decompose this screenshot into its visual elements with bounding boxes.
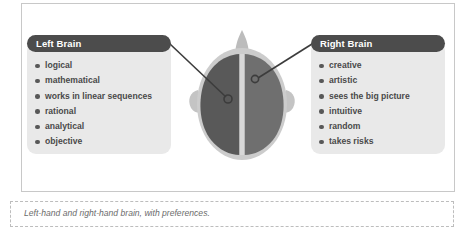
figure-caption-box: Left-hand and right-hand brain, with pre… [10, 201, 454, 227]
longitudinal-fissure [240, 54, 245, 155]
list-item: creative [311, 58, 445, 73]
list-item: random [311, 119, 445, 134]
list-item-label: mathematical [45, 75, 100, 85]
bullet-icon [319, 79, 324, 84]
left-brain-header: Left Brain [27, 35, 171, 52]
list-item-label: logical [45, 60, 72, 70]
list-item-label: creative [329, 60, 362, 70]
list-item: objective [27, 134, 171, 149]
bullet-icon [319, 64, 324, 69]
bullet-icon [35, 140, 40, 145]
list-item-label: rational [45, 106, 76, 116]
list-item-label: analytical [45, 121, 84, 131]
list-item: logical [27, 58, 171, 73]
bullet-icon [35, 125, 40, 130]
list-item-label: random [329, 121, 361, 131]
list-item: works in linear sequences [27, 89, 171, 104]
figure-caption-text: Left-hand and right-hand brain, with pre… [24, 208, 210, 218]
right-brain-header: Right Brain [311, 35, 445, 52]
bullet-icon [35, 94, 40, 99]
bullet-icon [319, 140, 324, 145]
list-item-label: artistic [329, 75, 357, 85]
bullet-icon [319, 125, 324, 130]
list-item: analytical [27, 119, 171, 134]
left-brain-list: logical mathematical works in linear seq… [27, 58, 171, 150]
list-item-label: takes risks [329, 136, 373, 146]
bullet-icon [319, 109, 324, 114]
right-brain-panel: Right Brain creative artistic sees the b… [311, 42, 445, 154]
right-brain-list: creative artistic sees the big picture i… [311, 58, 445, 150]
left-hemisphere [200, 54, 239, 155]
nose [236, 30, 249, 50]
left-brain-panel: Left Brain logical mathematical works in… [27, 42, 171, 154]
list-item-label: sees the big picture [329, 91, 410, 101]
list-item: rational [27, 104, 171, 119]
right-hemisphere [245, 54, 284, 155]
list-item: sees the big picture [311, 89, 445, 104]
bullet-icon [35, 64, 40, 69]
bullet-icon [35, 79, 40, 84]
brain-illustration [186, 28, 298, 168]
list-item: mathematical [27, 73, 171, 88]
list-item-label: intuitive [329, 106, 362, 116]
bullet-icon [35, 109, 40, 114]
list-item-label: works in linear sequences [45, 91, 152, 101]
list-item-label: objective [45, 136, 82, 146]
list-item: takes risks [311, 134, 445, 149]
figure-container: Left Brain logical mathematical works in… [0, 0, 464, 243]
bullet-icon [319, 94, 324, 99]
list-item: artistic [311, 73, 445, 88]
list-item: intuitive [311, 104, 445, 119]
